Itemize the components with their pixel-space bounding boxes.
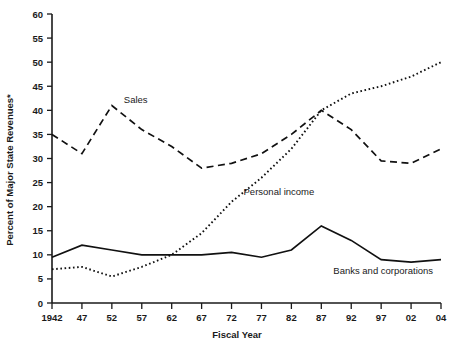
y-tick-label: 55 [32,33,43,44]
x-tick-label: 87 [316,312,327,323]
x-axis-title: Fiscal Year [212,329,262,340]
series-lines [52,62,441,276]
x-tick-label: 82 [286,312,297,323]
x-tick-label: 57 [136,312,147,323]
y-axis-title: Percent of Major State Revenues* [4,94,15,246]
x-tick-label: 77 [256,312,267,323]
series-line-banks-and-corporations [52,226,441,262]
series-line-personal-income [52,62,441,276]
y-tick-label: 30 [32,153,43,164]
chart-container: 051015202530354045505560 194247525762677… [0,0,449,344]
y-tick-label: 60 [32,9,43,20]
y-tick-label: 15 [32,225,43,236]
series-label-banks-and-corporations: Banks and corporations [333,265,433,276]
x-tick-label: 47 [77,312,88,323]
series-label-personal-income: Personal income [244,186,315,197]
line-chart: 051015202530354045505560 194247525762677… [0,0,449,344]
x-axis: 194247525762677277828792970204 [41,303,447,323]
y-tick-label: 50 [32,57,43,68]
series-annotations: SalesPersonal incomeBanks and corporatio… [124,94,434,276]
x-tick-label: 02 [406,312,417,323]
x-tick-label: 72 [226,312,237,323]
x-tick-label: 67 [196,312,207,323]
y-tick-label: 0 [38,298,43,309]
x-tick-label: 04 [436,312,447,323]
x-tick-label: 92 [346,312,357,323]
y-tick-label: 35 [32,129,43,140]
series-line-sales [52,106,441,169]
y-tick-label: 5 [38,273,44,284]
x-tick-label: 62 [166,312,177,323]
y-axis: 051015202530354045505560 [32,9,52,309]
y-tick-label: 25 [32,177,43,188]
series-label-sales: Sales [124,94,148,105]
y-tick-label: 45 [32,81,43,92]
x-tick-label: 97 [376,312,387,323]
y-tick-label: 40 [32,105,43,116]
y-tick-label: 10 [32,249,43,260]
x-tick-label: 52 [107,312,118,323]
x-tick-label: 1942 [41,312,62,323]
y-tick-label: 20 [32,201,43,212]
